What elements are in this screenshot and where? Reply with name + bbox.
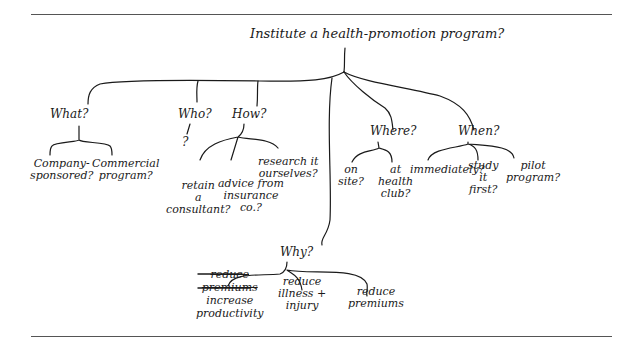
node-what: What? [50,108,88,120]
option-line: club? [378,188,413,200]
option-line: premiums [348,298,404,310]
option-line: injury [278,300,326,312]
when-option-pilot-program: pilot program? [506,160,560,184]
option-line: first? [468,184,498,196]
option-line: program? [506,172,560,184]
option-line: co.? [218,202,284,214]
option-line: ourselves? [258,168,318,180]
why-option-increase-productivity: reduce premiums increase productivity [196,268,264,320]
why-option-reduce-illness: reduce illness + injury [278,276,326,312]
what-option-company-sponsored: Company- sponsored? [30,158,93,182]
when-option-study-first: study it first? [468,160,498,196]
option-line: program? [92,170,159,182]
option-line: increase [196,294,264,307]
node-how: How? [232,108,266,120]
how-option-insurance-advice: advice from insurance co.? [218,178,284,214]
option-line: site? [338,176,364,188]
option-line: sponsored? [30,170,93,182]
node-who: Who? [178,108,212,120]
where-option-on-site: on site? [338,164,364,188]
why-option-reduce-premiums: reduce premiums [348,286,404,310]
struck-line: reduce [196,268,264,281]
root-question: Institute a health-promotion program? [250,28,504,40]
what-option-commercial-program: Commercial program? [92,158,159,182]
how-option-research-ourselves: research it ourselves? [258,156,318,180]
struck-line: premiums [196,281,264,294]
node-where: Where? [370,125,416,137]
option-line: productivity [196,307,264,320]
node-why: Why? [280,246,313,258]
where-option-health-club: at health club? [378,164,413,200]
node-when: When? [458,125,499,137]
who-option-unknown: ? [182,136,188,148]
